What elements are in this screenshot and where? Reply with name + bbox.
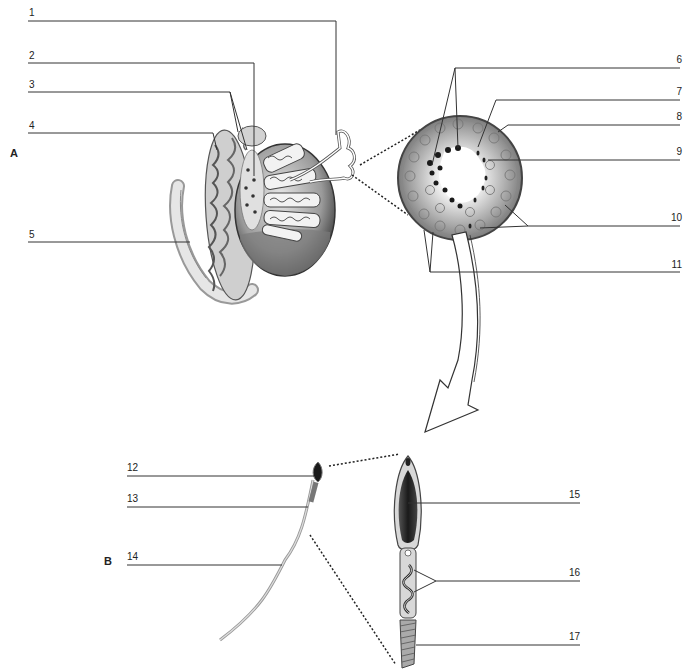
label-4: 4	[29, 121, 35, 131]
diagram-artwork	[0, 0, 695, 671]
label-14: 14	[127, 552, 138, 562]
panel-label-a: A	[10, 147, 18, 159]
label-9: 9	[662, 147, 682, 157]
panel-label-b: B	[104, 555, 112, 567]
label-16: 16	[560, 568, 580, 578]
label-2: 2	[29, 51, 35, 61]
leader-lines-a	[28, 21, 680, 272]
label-13: 13	[127, 494, 138, 504]
label-11: 11	[662, 260, 682, 270]
sperm-small	[220, 462, 322, 640]
label-6: 6	[662, 55, 682, 65]
label-7: 7	[662, 87, 682, 97]
curved-arrow	[425, 232, 478, 432]
label-12: 12	[127, 463, 138, 473]
label-15: 15	[560, 490, 580, 500]
label-1: 1	[29, 8, 35, 18]
testis-sperm-diagram: A B 1 2 3 4 5 6 7 8 9 10 11 12 13 14 15 …	[0, 0, 695, 671]
sperm-enlarged	[394, 456, 421, 668]
zoom-lines-b	[310, 454, 400, 665]
label-5: 5	[29, 230, 35, 240]
tubule-cross-section	[398, 116, 522, 240]
label-10: 10	[662, 213, 682, 223]
label-17: 17	[560, 632, 580, 642]
leader-lines-b	[127, 476, 580, 645]
label-3: 3	[29, 80, 35, 90]
label-8: 8	[662, 112, 682, 122]
testis-illustration	[176, 126, 354, 301]
